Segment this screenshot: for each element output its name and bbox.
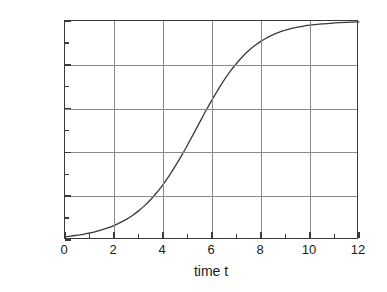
gridline-vertical: [261, 21, 262, 238]
x-tick-major: [211, 232, 213, 238]
y-tick-minor: [65, 217, 69, 219]
x-tick-minor: [89, 234, 91, 238]
gridline-vertical: [114, 21, 115, 238]
gridline-horizontal: [65, 65, 357, 66]
x-tick-minor: [138, 234, 140, 238]
x-tick-major: [113, 232, 115, 238]
x-tick-label: 8: [240, 243, 280, 256]
y-tick-minor: [65, 86, 69, 88]
y-tick-major: [65, 239, 71, 241]
y-tick-major: [65, 64, 71, 66]
x-tick-minor: [285, 234, 287, 238]
gridline-vertical: [310, 21, 311, 238]
x-tick-major: [358, 232, 360, 238]
gridline-horizontal: [65, 152, 357, 153]
x-tick-label: 4: [142, 243, 182, 256]
plot-area: [64, 20, 358, 239]
x-tick-major: [260, 232, 262, 238]
x-tick-major: [64, 232, 66, 238]
y-tick-major: [65, 195, 71, 197]
y-tick-major: [65, 108, 71, 110]
figure: share x(a,t) time t 0,00,20,40,60,81,002…: [0, 0, 387, 292]
x-tick-label: 10: [289, 243, 329, 256]
y-tick-minor: [65, 174, 69, 176]
x-tick-label: 2: [93, 243, 133, 256]
gridline-horizontal: [65, 109, 357, 110]
x-tick-label: 12: [338, 243, 378, 256]
x-tick-minor: [334, 234, 336, 238]
y-tick-minor: [65, 42, 69, 44]
gridline-vertical: [212, 21, 213, 238]
x-tick-label: 0: [44, 243, 84, 256]
x-tick-label: 6: [191, 243, 231, 256]
y-tick-minor: [65, 130, 69, 132]
gridline-vertical: [163, 21, 164, 238]
x-axis-title: time t: [64, 263, 358, 279]
gridline-horizontal: [65, 196, 357, 197]
x-tick-major: [162, 232, 164, 238]
x-tick-minor: [236, 234, 238, 238]
y-tick-major: [65, 20, 71, 22]
x-tick-major: [309, 232, 311, 238]
y-tick-major: [65, 152, 71, 154]
x-tick-minor: [187, 234, 189, 238]
